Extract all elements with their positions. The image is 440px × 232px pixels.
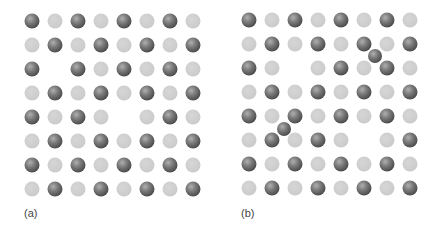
atom-a-r1-c4: [117, 38, 132, 53]
atom-a-r0-c1: [48, 14, 63, 29]
atom-b-r7-c7: [403, 181, 418, 196]
atom-b-r7-c5: [357, 181, 372, 196]
atom-b-r1-c3: [311, 37, 326, 52]
atom-b-r3-c7: [403, 85, 418, 100]
atom-a-r0-c2: [71, 14, 86, 29]
atom-b-r2-c0: [242, 61, 257, 76]
atom-b-r4-c7: [403, 109, 418, 124]
panel-a-label: (a): [24, 207, 37, 219]
atom-a-r0-c4: [117, 14, 132, 29]
atom-a-r6-c4: [117, 158, 132, 173]
atom-b-r5-c0: [242, 133, 257, 148]
atom-a-r2-c4: [117, 62, 132, 77]
atom-b-r7-c1: [265, 181, 280, 196]
atom-b-r7-c2: [288, 181, 303, 196]
atom-a-r7-c0: [25, 182, 40, 197]
atom-a-r7-c2: [71, 182, 86, 197]
atom-a-r5-c4: [117, 134, 132, 149]
atom-a-r4-c6: [163, 110, 178, 125]
atom-a-r3-c0: [25, 86, 40, 101]
atom-b-r7-c0: [242, 181, 257, 196]
atom-b-r6-c3: [311, 157, 326, 172]
atom-b-r2-c1: [265, 61, 280, 76]
atom-a-r5-c6: [163, 134, 178, 149]
atom-b-r1-c0: [242, 37, 257, 52]
atom-a-r7-c1: [48, 182, 63, 197]
atom-b-r5-c4: [334, 133, 349, 148]
atom-b-r6-c2: [288, 157, 303, 172]
atom-b-r3-c6: [380, 85, 395, 100]
atom-a-r3-c2: [71, 86, 86, 101]
atom-a-r0-c5: [140, 14, 155, 29]
atom-b-r0-c6: [380, 13, 395, 28]
atom-b-r6-c1: [265, 157, 280, 172]
atom-a-r0-c3: [94, 14, 109, 29]
atom-a-r3-c5: [140, 86, 155, 101]
atom-b-r6-c5: [357, 157, 372, 172]
atom-b-r4-c6: [380, 109, 395, 124]
atom-b-r1-c1: [265, 37, 280, 52]
atom-a-r4-c2: [71, 110, 86, 125]
atom-a-r6-c7: [186, 158, 201, 173]
atom-a-r5-c1: [48, 134, 63, 149]
atom-b-r4-c2: [288, 109, 303, 124]
atom-a-r6-c5: [140, 158, 155, 173]
atom-a-r1-c2: [71, 38, 86, 53]
atom-b-r0-c5: [357, 13, 372, 28]
atom-a-r4-c5: [140, 110, 155, 125]
atom-a-r3-c3: [94, 86, 109, 101]
atom-b-r5-c3: [311, 133, 326, 148]
atom-a-r4-c1: [48, 110, 63, 125]
atom-b-r0-c7: [403, 13, 418, 28]
atom-a-r2-c0: [25, 62, 40, 77]
atom-a-r3-c6: [163, 86, 178, 101]
atom-b-r3-c5: [357, 85, 372, 100]
atom-b-r2-c7: [403, 61, 418, 76]
atom-b-r0-c2: [288, 13, 303, 28]
atom-a-r1-c0: [25, 38, 40, 53]
atom-b-r0-c0: [242, 13, 257, 28]
atom-a-r4-c0: [25, 110, 40, 125]
atom-a-r7-c3: [94, 182, 109, 197]
atom-b-r6-c6: [380, 157, 395, 172]
atom-b-r3-c1: [265, 85, 280, 100]
atom-a-r1-c3: [94, 38, 109, 53]
atom-b-r5-c2: [288, 133, 303, 148]
atom-b-r4-c5: [357, 109, 372, 124]
atom-b-r5-c1: [265, 133, 280, 148]
atom-a-r5-c0: [25, 134, 40, 149]
atom-b-r1-c4: [334, 37, 349, 52]
atom-a-r1-c5: [140, 38, 155, 53]
atom-b-r2-c6: [380, 61, 395, 76]
atom-a-r2-c6: [163, 62, 178, 77]
atom-b-r1-c5: [357, 37, 372, 52]
atom-b-r3-c3: [311, 85, 326, 100]
atom-b-r2-c5: [357, 61, 372, 76]
atom-a-r2-c7: [186, 62, 201, 77]
atom-a-r3-c7: [186, 86, 201, 101]
atom-b-r4-c3: [311, 109, 326, 124]
atom-b-r3-c4: [334, 85, 349, 100]
atom-b-r6-c0: [242, 157, 257, 172]
atom-a-r7-c5: [140, 182, 155, 197]
atom-a-r3-c1: [48, 86, 63, 101]
panel-b-label: (b): [241, 207, 254, 219]
atom-b-r2-c4: [334, 61, 349, 76]
atom-a-r4-c3: [94, 110, 109, 125]
atom-b-r4-c4: [334, 109, 349, 124]
atom-a-r1-c7: [186, 38, 201, 53]
atom-a-r7-c6: [163, 182, 178, 197]
atom-b-r6-c4: [334, 157, 349, 172]
atom-a-r0-c0: [25, 14, 40, 29]
atom-b-r1-c6: [380, 37, 395, 52]
atom-a-r7-c4: [117, 182, 132, 197]
atom-a-r6-c6: [163, 158, 178, 173]
atom-a-r1-c6: [163, 38, 178, 53]
atom-a-r0-c7: [186, 14, 201, 29]
atom-a-r7-c7: [186, 182, 201, 197]
atom-a-r5-c5: [140, 134, 155, 149]
atom-b-r2-c3: [311, 61, 326, 76]
atom-b-r7-c6: [380, 181, 395, 196]
interstitial-atom-b-1: [277, 122, 291, 136]
atom-a-r2-c3: [94, 62, 109, 77]
